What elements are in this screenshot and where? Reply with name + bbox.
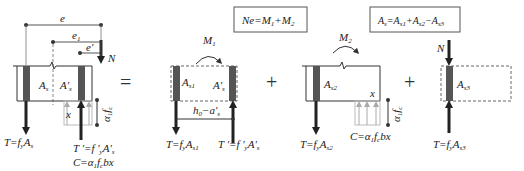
steel-bar-As1 bbox=[173, 66, 180, 101]
label-As: As bbox=[38, 79, 49, 93]
label-Aps: A's bbox=[59, 79, 72, 93]
label-Tprime: T '=f 'yA's bbox=[73, 142, 115, 156]
label-T-1: T=fyAs1 bbox=[166, 138, 199, 152]
panel-1: M1 As1 A's h0−a's T=fyAs1 T '=f 'yA's bbox=[166, 34, 260, 152]
plus-operator-2: + bbox=[404, 71, 415, 93]
steel-bar-As bbox=[23, 66, 30, 101]
dim-e1: e1 bbox=[72, 29, 80, 43]
label-As2: As2 bbox=[323, 78, 337, 92]
label-T: T=fyAs bbox=[4, 136, 33, 150]
label-As1: As1 bbox=[181, 76, 195, 90]
superposition-diagram: e e1 e' N As A's x α1fc T=fy bbox=[0, 0, 524, 171]
label-x: x bbox=[65, 108, 71, 120]
panel-3: N As3 T=fyAs3 bbox=[433, 40, 511, 152]
steel-bar-Aps-1 bbox=[229, 66, 236, 101]
label-C-2: C=α1fcbx bbox=[350, 130, 391, 144]
stress-alpha-fc: α1fc bbox=[100, 106, 114, 122]
load-N: N bbox=[107, 52, 116, 64]
label-As3: As3 bbox=[456, 78, 470, 92]
label-T-3: T=fyAs3 bbox=[433, 138, 466, 152]
load-N-3: N bbox=[436, 42, 445, 54]
svg-text:Ne=M1+M2: Ne=M1+M2 bbox=[241, 14, 295, 28]
area-box: As=As1+As2−As3 bbox=[370, 7, 460, 32]
steel-bar-As2 bbox=[313, 66, 320, 101]
label-x-2: x bbox=[369, 87, 375, 99]
label-M1: M1 bbox=[202, 34, 216, 48]
label-T-2: T=fyAs2 bbox=[300, 138, 333, 152]
equals-operator: = bbox=[120, 71, 131, 93]
steel-bar-Aps bbox=[78, 66, 85, 101]
panel-2: M2 As2 x α1fc T=fyAs2 C=α1fcbx bbox=[300, 31, 404, 152]
dim-eprime: e' bbox=[86, 41, 94, 53]
stress-alpha-fc-2: α1fc bbox=[390, 106, 404, 122]
steel-bar-As3 bbox=[446, 66, 453, 101]
label-Tprime-1: T '=f 'yA's bbox=[218, 138, 260, 152]
label-C: C=α1fcbx bbox=[73, 156, 114, 170]
panel-total: e e1 e' N As A's x α1fc T=fy bbox=[4, 12, 116, 170]
plus-operator-1: + bbox=[266, 71, 277, 93]
label-Aps-1: A's bbox=[212, 79, 225, 93]
equilibrium-box: Ne=M1+M2 bbox=[234, 7, 307, 32]
moment-M1-arrow bbox=[196, 56, 220, 64]
label-M2: M2 bbox=[338, 31, 352, 45]
dim-e: e bbox=[60, 12, 65, 24]
label-lever-arm: h0−a's bbox=[193, 104, 220, 118]
